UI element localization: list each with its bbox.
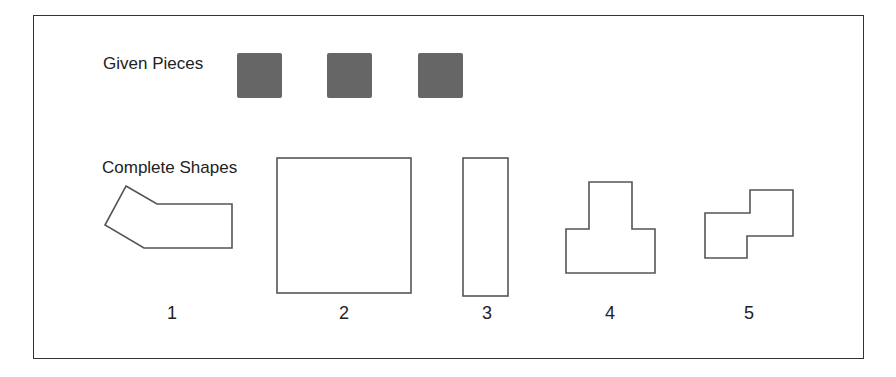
shape-number-5: 5 xyxy=(744,303,754,324)
shape-1 xyxy=(105,186,232,248)
shape-number-3: 3 xyxy=(482,303,492,324)
shape-number-4: 4 xyxy=(605,303,615,324)
shape-5 xyxy=(705,190,793,258)
shape-4 xyxy=(566,182,655,273)
complete-shapes-drawing xyxy=(0,0,896,377)
shape-number-1: 1 xyxy=(167,303,177,324)
shape-3 xyxy=(463,158,508,296)
shape-2 xyxy=(277,158,411,293)
shape-number-2: 2 xyxy=(339,303,349,324)
